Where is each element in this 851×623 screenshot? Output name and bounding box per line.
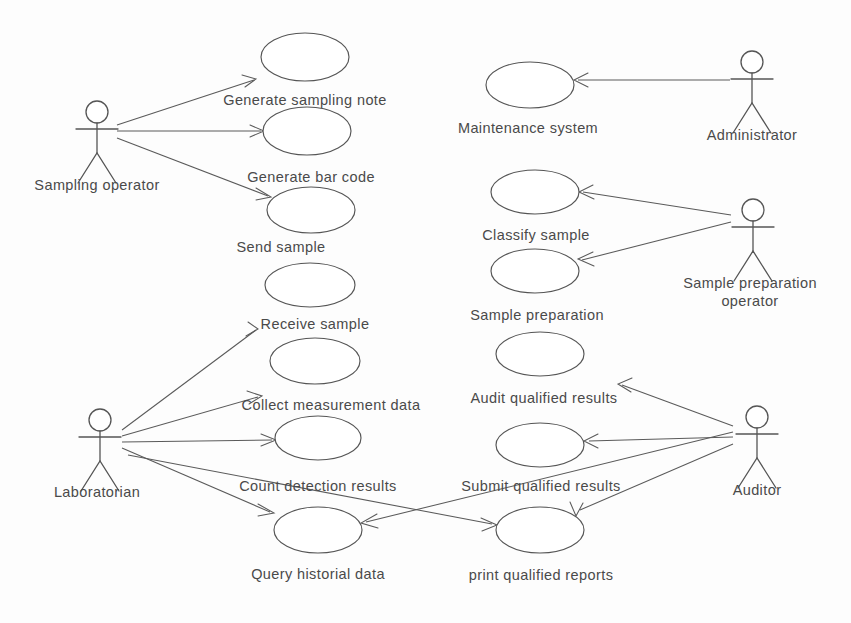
- usecase-print-qualified-reports[interactable]: print qualified reports: [469, 507, 614, 583]
- actor-label: Laboratorian: [54, 484, 140, 500]
- usecase-classify-sample[interactable]: Classify sample: [482, 170, 590, 243]
- usecase-ellipse[interactable]: [491, 249, 579, 293]
- actor-sample-preparation-operator[interactable]: Sample preparationoperator: [683, 199, 817, 309]
- arrow-head-icon: [481, 518, 497, 531]
- association-laboratorian-to-count-detection-results: [122, 434, 276, 446]
- usecase-ellipse[interactable]: [261, 33, 349, 81]
- usecase-label: Sample preparation: [470, 307, 604, 323]
- usecase-ellipse[interactable]: [265, 263, 355, 307]
- actor-label-line2: operator: [721, 293, 778, 309]
- actor-label: Auditor: [733, 482, 782, 498]
- usecase-generate-sampling-note[interactable]: Generate sampling note: [223, 33, 387, 108]
- usecase-ellipse[interactable]: [496, 332, 584, 376]
- association-line: [583, 192, 731, 215]
- usecase-ellipse[interactable]: [270, 338, 360, 384]
- usecase-sample-preparation[interactable]: Sample preparation: [470, 249, 604, 323]
- usecase-label: Receive sample: [261, 316, 370, 332]
- usecase-label: Collect measurement data: [242, 397, 421, 413]
- actor-label: Sampling operator: [34, 177, 159, 193]
- actor-head-icon: [742, 199, 764, 221]
- actor-head-icon: [741, 51, 763, 73]
- association-sample-prep-operator-to-classify-sample: [579, 185, 731, 215]
- usecase-ellipse[interactable]: [491, 170, 579, 214]
- usecase-ellipse[interactable]: [486, 62, 574, 108]
- association-line: [582, 222, 731, 260]
- actors-layer: Sampling operatorAdministratorSample pre…: [34, 51, 817, 500]
- association-line: [122, 330, 256, 430]
- arrow-head-icon: [242, 75, 256, 87]
- usecase-label: Classify sample: [482, 227, 590, 243]
- usecase-send-sample[interactable]: Send sample: [236, 187, 355, 255]
- actor-label: Administrator: [707, 127, 798, 143]
- usecase-label: Generate sampling note: [223, 92, 387, 108]
- association-auditor-to-audit-qualified-results: [618, 378, 733, 426]
- usecase-ellipse[interactable]: [275, 416, 361, 460]
- usecase-label: Count detection results: [239, 478, 397, 494]
- association-sample-prep-operator-to-sample-preparation: [578, 222, 731, 266]
- actor-head-icon: [89, 409, 111, 431]
- arrow-head-icon: [579, 185, 594, 199]
- usecase-receive-sample[interactable]: Receive sample: [261, 263, 370, 332]
- association-line: [580, 444, 733, 510]
- diagram-canvas: Generate sampling noteGenerate bar codeS…: [0, 0, 851, 623]
- usecase-ellipse[interactable]: [496, 507, 584, 553]
- usecase-label: Maintenance system: [458, 120, 598, 136]
- usecase-label: Audit qualified results: [470, 390, 617, 406]
- association-auditor-to-submit-qualified-results: [584, 434, 733, 448]
- association-sampling-operator-to-generate-bar-code: [117, 125, 264, 137]
- usecase-ellipse[interactable]: [496, 423, 584, 467]
- association-line: [122, 397, 258, 436]
- usecase-label: Generate bar code: [247, 169, 375, 185]
- usecase-label: print qualified reports: [469, 567, 614, 583]
- usecase-ellipse[interactable]: [263, 107, 351, 155]
- usecase-collect-measurement-data[interactable]: Collect measurement data: [242, 338, 421, 413]
- usecases-layer: Generate sampling noteGenerate bar codeS…: [223, 33, 621, 583]
- actor-label: Sample preparation: [683, 275, 817, 291]
- usecase-count-detection-results[interactable]: Count detection results: [239, 416, 397, 494]
- usecase-label: Submit qualified results: [461, 478, 621, 494]
- actor-head-icon: [746, 406, 768, 428]
- arrow-head-icon: [618, 378, 632, 392]
- usecase-label: Send sample: [236, 239, 325, 255]
- usecase-submit-qualified-results[interactable]: Submit qualified results: [461, 423, 621, 494]
- actor-administrator[interactable]: Administrator: [707, 51, 798, 143]
- usecase-label: Query historial data: [251, 566, 385, 582]
- association-laboratorian-to-receive-sample: [122, 322, 258, 430]
- usecase-generate-bar-code[interactable]: Generate bar code: [247, 107, 375, 185]
- usecase-ellipse[interactable]: [267, 187, 355, 233]
- actor-laboratorian[interactable]: Laboratorian: [54, 409, 140, 500]
- arrow-head-icon: [246, 322, 258, 336]
- associations-layer: [117, 73, 733, 531]
- association-administrator-to-maintenance-system: [574, 73, 730, 87]
- usecase-query-historial-data[interactable]: Query historial data: [251, 507, 385, 582]
- use-case-diagram: Generate sampling noteGenerate bar codeS…: [0, 0, 851, 623]
- usecase-ellipse[interactable]: [274, 507, 362, 553]
- association-line: [122, 440, 272, 442]
- association-line: [622, 385, 733, 426]
- actor-head-icon: [86, 101, 108, 123]
- usecase-audit-qualified-results[interactable]: Audit qualified results: [470, 332, 617, 406]
- usecase-maintenance-system[interactable]: Maintenance system: [458, 62, 598, 136]
- actor-auditor[interactable]: Auditor: [733, 406, 782, 498]
